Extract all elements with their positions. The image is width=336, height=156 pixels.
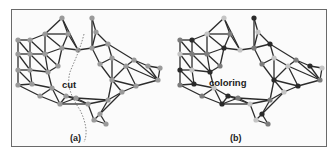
mesh-edge (288, 66, 298, 86)
mesh-node (259, 61, 264, 66)
mesh-node (177, 51, 182, 56)
mesh-edge (274, 66, 288, 80)
mesh-edge (250, 100, 270, 104)
coloring-label: coloring (209, 77, 247, 88)
mesh-node (177, 82, 182, 87)
mesh-edge (100, 92, 122, 114)
caption-b: (b) (230, 133, 242, 143)
mesh-edge (262, 64, 274, 80)
mesh-node (105, 41, 110, 46)
mesh-edge (18, 85, 40, 96)
mesh-node (295, 83, 300, 88)
mesh-node (27, 67, 32, 72)
mesh-node (29, 81, 34, 86)
mesh-edge (207, 48, 224, 54)
mesh-node (307, 63, 312, 68)
mesh-node (42, 31, 47, 36)
mesh-node (91, 117, 96, 122)
mesh-node (177, 67, 182, 72)
mesh-node (37, 93, 42, 98)
mesh-edge (100, 64, 112, 80)
mesh-edge (108, 80, 112, 100)
mesh-edge (18, 40, 30, 54)
mesh-edge (45, 48, 62, 54)
mesh-node (109, 77, 114, 82)
mesh-node (317, 77, 322, 82)
mesh-node (133, 83, 138, 88)
mesh-edge (88, 100, 108, 104)
mesh-node (59, 15, 64, 20)
mesh-node (267, 97, 272, 102)
mesh-node (271, 55, 276, 60)
mesh-node (105, 97, 110, 102)
mesh-edge (220, 48, 224, 66)
mesh-node (97, 61, 102, 66)
mesh-node (177, 37, 182, 42)
mesh-edge (30, 70, 48, 72)
mesh-edge (45, 18, 62, 34)
mesh-node (285, 63, 290, 68)
mesh-edge (270, 80, 274, 100)
mesh-node (281, 89, 286, 94)
mesh-edge (32, 84, 52, 88)
mesh-node (57, 101, 62, 106)
mesh-edge (296, 60, 320, 80)
mesh-node (253, 117, 258, 122)
mesh-node (55, 63, 60, 68)
mesh-node (221, 15, 226, 20)
mesh-node (271, 77, 276, 82)
mesh-node (251, 15, 256, 20)
mesh-node (89, 45, 94, 50)
mesh-node (145, 63, 150, 68)
mesh-node (93, 29, 98, 34)
mesh-edge (18, 54, 30, 70)
mesh-node (49, 85, 54, 90)
mesh-node (189, 51, 194, 56)
mesh-node (189, 67, 194, 72)
mesh-node (15, 51, 20, 56)
mesh-edge (207, 18, 224, 34)
mesh-node (204, 31, 209, 36)
mesh-node (97, 111, 102, 116)
mesh-node (157, 65, 162, 70)
mesh-edge (112, 66, 126, 80)
mesh-edge (136, 80, 158, 86)
mesh-node (45, 69, 50, 74)
mesh-edge (126, 66, 136, 86)
mesh-node (42, 51, 47, 56)
mesh-edge (254, 48, 262, 64)
mesh-node (237, 47, 242, 52)
mesh-figure: cut (a) coloring (b) (0, 0, 336, 156)
mesh-node (255, 29, 260, 34)
mesh-node (319, 65, 324, 70)
mesh-node (109, 55, 114, 60)
panel-b-coloring-mesh (177, 15, 324, 126)
mesh-node (293, 57, 298, 62)
mesh-edge (45, 34, 62, 48)
mesh-node (27, 51, 32, 56)
mesh-node (189, 37, 194, 42)
cut-label: cut (62, 79, 77, 90)
mesh-edge (92, 48, 100, 64)
mesh-node (235, 95, 240, 100)
mesh-node (219, 101, 224, 106)
mesh-node (15, 37, 20, 42)
mesh-edge (180, 54, 192, 70)
caption-a: (a) (70, 133, 81, 143)
mesh-node (267, 41, 272, 46)
mesh-node (119, 89, 124, 94)
mesh-edge (192, 40, 207, 54)
mesh-node (15, 82, 20, 87)
mesh-node (89, 15, 94, 20)
mesh-node (59, 45, 64, 50)
mesh-node (155, 77, 160, 82)
mesh-node (131, 57, 136, 62)
mesh-node (65, 31, 70, 36)
mesh-node (265, 121, 270, 126)
mesh-node (199, 93, 204, 98)
mesh-edge (30, 40, 45, 54)
mesh-node (251, 45, 256, 50)
mesh-node (15, 67, 20, 72)
mesh-edge (192, 70, 210, 72)
mesh-node (247, 101, 252, 106)
